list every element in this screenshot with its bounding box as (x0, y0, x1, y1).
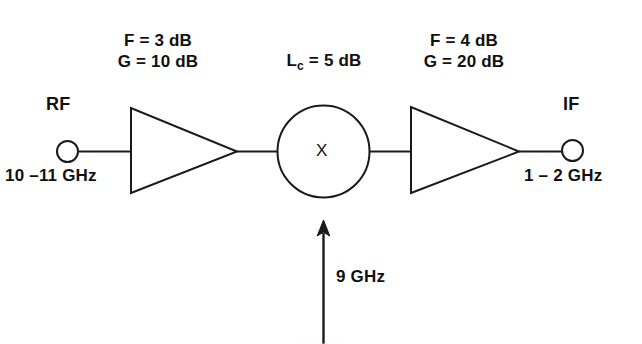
amplifier-1-triangle (131, 108, 237, 193)
mixer-loss-prefix: L (286, 51, 297, 70)
mixer-loss-value: = 5 dB (304, 51, 362, 70)
amplifier-2-gain: G = 20 dB (392, 51, 536, 72)
amplifier-1-noise-figure: F = 3 dB (88, 30, 228, 51)
amplifier-1-parameters: F = 3 dB G = 10 dB (88, 30, 228, 73)
amplifier-2-noise-figure: F = 4 dB (392, 30, 536, 51)
if-port-label: IF (563, 93, 579, 116)
mixer-conversion-loss-line: Lc = 5 dB (258, 50, 390, 74)
amplifier-2-parameters: F = 4 dB G = 20 dB (392, 30, 536, 73)
amplifier-1-gain: G = 10 dB (88, 51, 228, 72)
figure-canvas: F = 3 dB G = 10 dB Lc = 5 dB F = 4 dB G … (0, 0, 642, 344)
mixer-loss-subscript: c (297, 59, 304, 73)
mixer-conversion-loss: Lc = 5 dB (258, 50, 390, 74)
rf-port-label: RF (46, 93, 70, 116)
amplifier-2-triangle (411, 107, 519, 193)
if-port-circle (562, 140, 583, 161)
rf-port-circle (57, 141, 78, 162)
rf-frequency-label: 10 –11 GHz (5, 165, 97, 186)
if-frequency-label: 1 – 2 GHz (524, 165, 602, 186)
clipped-bottom-caption: ⎯⎯⎯⎯⎯⎯⎯⎯ (0, 336, 642, 344)
mixer-multiply-symbol: X (316, 140, 328, 161)
lo-frequency-label: 9 GHz (336, 266, 385, 287)
